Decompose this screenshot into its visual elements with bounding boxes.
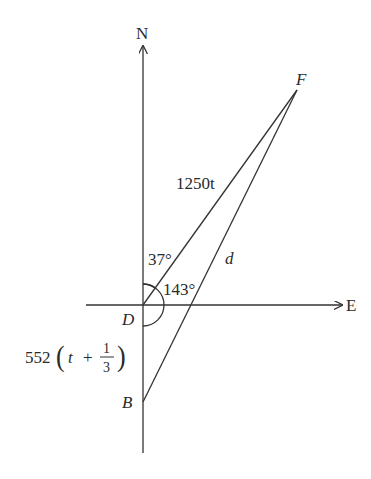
svg-text:1: 1 <box>103 341 110 356</box>
svg-text:t: t <box>68 348 74 367</box>
segment-df-label: 1250t <box>176 174 215 193</box>
segment-bf <box>143 90 297 402</box>
bearing-diagram: N E F D B 1250t d 37° 143° 552 ( t + 1 3… <box>0 0 371 479</box>
point-d-label: D <box>121 310 135 329</box>
svg-text:3: 3 <box>103 360 110 375</box>
svg-text:): ) <box>117 341 126 372</box>
angle-143-label: 143° <box>163 280 195 299</box>
svg-text:+: + <box>83 348 93 367</box>
east-label: E <box>346 296 356 315</box>
svg-text:552: 552 <box>25 348 51 367</box>
segment-db-label: 552 ( t + 1 3 ) <box>25 341 126 375</box>
segment-bf-label: d <box>225 249 234 268</box>
segment-df <box>143 90 297 305</box>
svg-text:(: ( <box>56 341 65 372</box>
north-label: N <box>136 24 148 43</box>
point-f-label: F <box>295 70 307 89</box>
angle-37-label: 37° <box>148 250 172 269</box>
point-b-label: B <box>122 393 133 412</box>
